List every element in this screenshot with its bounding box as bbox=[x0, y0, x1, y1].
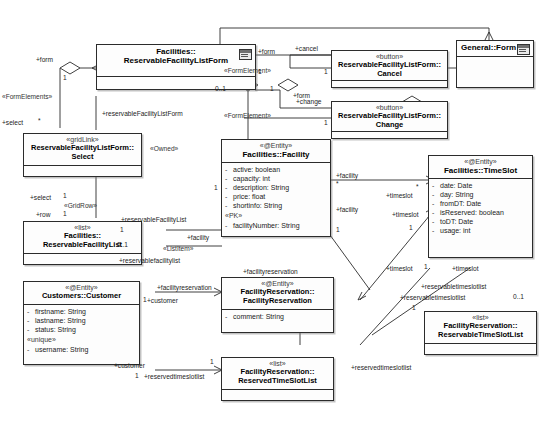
multiplicity: 1 bbox=[324, 68, 328, 76]
attribute-row: -fromDT: Date bbox=[432, 199, 530, 208]
class-stereotype: «@Entity» bbox=[225, 142, 327, 150]
edge-label-select-top: +select bbox=[2, 119, 23, 127]
multiplicity: 1 bbox=[336, 226, 340, 234]
class-name-line1: Facilities::TimeSlot bbox=[432, 166, 529, 175]
visibility: - bbox=[432, 190, 437, 199]
attribute-text: firstname: String bbox=[35, 307, 86, 316]
attribute-text: lastname: String bbox=[35, 316, 86, 325]
class-general-form[interactable]: General::Form bbox=[456, 40, 534, 88]
edge-label-cancel: +cancel bbox=[295, 45, 318, 53]
visibility: - bbox=[432, 181, 437, 190]
edge-label-reservabletimeslotlist-1: +reservabletimeslotlist bbox=[421, 283, 486, 291]
visibility: - bbox=[27, 316, 32, 325]
form-icon bbox=[517, 44, 530, 55]
multiplicity: 0..1 bbox=[513, 293, 524, 301]
edge-label-facility-reservation-link: +facility bbox=[336, 206, 358, 214]
multiplicity: 1 bbox=[143, 296, 147, 304]
visibility: - bbox=[225, 201, 230, 210]
multiplicity: 1 bbox=[214, 184, 218, 192]
edge-label-select-bottom: +select bbox=[30, 194, 51, 202]
multiplicity: * bbox=[38, 117, 41, 125]
attribute-text: fromDT: Date bbox=[440, 199, 481, 208]
class-select-gridlink[interactable]: «gridLink» ReservableFacilityListForm:: … bbox=[23, 133, 142, 177]
attribute-row: -usage: int bbox=[432, 226, 530, 235]
multiplicity: 1 bbox=[63, 210, 67, 218]
class-body bbox=[97, 77, 255, 92]
class-time-slot[interactable]: «@Entity» Facilities::TimeSlot -date: Da… bbox=[428, 155, 533, 258]
visibility: - bbox=[225, 312, 230, 321]
attribute-row: -status: String bbox=[27, 325, 137, 334]
attribute-text: status: String bbox=[35, 325, 76, 334]
class-attributes: -firstname: String -lastname: String -st… bbox=[24, 305, 139, 356]
visibility: - bbox=[432, 208, 437, 217]
class-name-line2: FacilityReservation bbox=[225, 297, 330, 306]
attribute-group-label: «PK» bbox=[225, 210, 328, 221]
edge-label-facilityreservation-1: +facilityreservation bbox=[243, 268, 298, 276]
class-name-line2: Select bbox=[27, 153, 138, 162]
class-name-line2: Change bbox=[335, 121, 444, 130]
attribute-text: active: boolean bbox=[233, 165, 280, 174]
edge-label-customer-1: +customer bbox=[147, 297, 178, 305]
edge-label-formelements-left: «FormElements» bbox=[2, 93, 52, 101]
class-reserved-time-slot-list[interactable]: «list» FacilityReservation:: ReservedTim… bbox=[221, 357, 334, 401]
edge-label-reservablefacilitylist: +reservablefacilitylist bbox=[119, 257, 180, 265]
multiplicity: 1 bbox=[412, 304, 416, 312]
visibility: - bbox=[225, 221, 230, 230]
attribute-text: description: String bbox=[233, 183, 289, 192]
class-facility-reservation[interactable]: «@Entity» FacilityReservation:: Facility… bbox=[221, 277, 334, 333]
edge-label-timeslot-2: +timeslot bbox=[392, 211, 419, 219]
class-attributes: -active: boolean -capacity: int -descrip… bbox=[222, 163, 330, 232]
form-icon bbox=[239, 49, 252, 60]
edge-label-timeslot-4: +timeslot bbox=[452, 265, 479, 273]
attribute-text: toDT: Date bbox=[440, 217, 473, 226]
attribute-row: -username: String bbox=[27, 345, 137, 354]
attribute-text: date: Date bbox=[440, 181, 472, 190]
edge-label-facility-listitem: +facility bbox=[187, 234, 209, 242]
attribute-row: -lastname: String bbox=[27, 316, 137, 325]
class-body bbox=[425, 344, 536, 355]
class-body bbox=[24, 166, 141, 177]
attribute-row: -facilityNumber: String bbox=[225, 221, 328, 230]
class-facility[interactable]: «@Entity» Facilities::Facility -active: … bbox=[221, 139, 331, 237]
visibility: - bbox=[432, 226, 437, 235]
uml-diagram-canvas: Facilities:: ReservableFacilityListForm … bbox=[0, 0, 544, 436]
attribute-row: -price: float bbox=[225, 192, 328, 201]
edge-label-form-bottom: +form bbox=[293, 92, 310, 100]
multiplicity: 1 bbox=[135, 372, 139, 380]
class-name-line1: Customers::Customer bbox=[27, 292, 136, 301]
multiplicity: 1 bbox=[424, 263, 428, 271]
attribute-text: username: String bbox=[35, 345, 88, 354]
multiplicity: 1 bbox=[63, 74, 67, 82]
edge-label-facilityreservation-2: +facilityreservation bbox=[157, 284, 212, 292]
class-name-line1: Facilities::Facility bbox=[225, 150, 327, 159]
visibility: - bbox=[27, 345, 32, 354]
multiplicity: 1 bbox=[210, 358, 214, 366]
attribute-row: -isReserved: boolean bbox=[432, 208, 530, 217]
visibility: - bbox=[225, 192, 230, 201]
class-change-button[interactable]: «button» ReservableFacilityListForm:: Ch… bbox=[331, 101, 448, 139]
visibility: - bbox=[432, 217, 437, 226]
class-reservable-time-slot-list[interactable]: «list» FacilityReservation:: ReservableT… bbox=[424, 311, 537, 355]
multiplicity: 0..1 bbox=[215, 85, 226, 93]
attribute-text: capacity: int bbox=[233, 174, 270, 183]
edge-label-owned: «Owned» bbox=[150, 145, 178, 153]
attribute-group-label: «unique» bbox=[27, 334, 137, 345]
class-customer[interactable]: «@Entity» Customers::Customer -firstname… bbox=[23, 281, 140, 365]
edge-label-row: +row bbox=[36, 211, 50, 219]
edge-label-formelement-change: «FormElement» bbox=[224, 112, 271, 120]
attribute-text: isReserved: boolean bbox=[440, 208, 504, 217]
edge-label-form-left: +form bbox=[36, 56, 53, 64]
class-body bbox=[222, 390, 333, 401]
edge-label-listitem: «ListItem» bbox=[163, 245, 193, 253]
multiplicity: * bbox=[336, 180, 339, 188]
class-name-line1: Facilities:: bbox=[100, 47, 252, 56]
attribute-text: day: String bbox=[440, 190, 473, 199]
visibility: - bbox=[432, 199, 437, 208]
edge-label-timeslot-1: +timeslot bbox=[386, 192, 413, 200]
class-attributes: -date: Date -day: String -fromDT: Date -… bbox=[429, 179, 532, 237]
class-cancel-button[interactable]: «button» ReservableFacilityListForm:: Ca… bbox=[331, 50, 448, 88]
edge-label-gridrow: «GridRow» bbox=[64, 202, 97, 210]
edge-label-reservedtimeslotlist-2: +reservedtimeslotlist bbox=[351, 364, 411, 372]
visibility: - bbox=[225, 165, 230, 174]
attribute-text: shortinfo: String bbox=[233, 201, 282, 210]
